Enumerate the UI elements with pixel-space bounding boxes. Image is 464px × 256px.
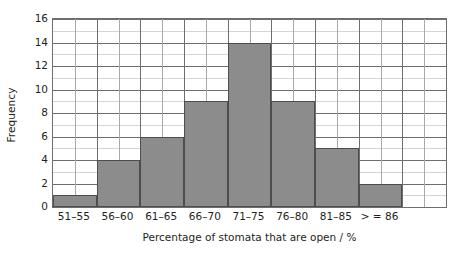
x-axis-tick-labels: 51–5556–6061–6566–7071–7576–8081–85> = 8… [52, 210, 447, 226]
y-axis-tick-label: 12 [35, 59, 48, 71]
bar-series [53, 19, 446, 207]
y-axis-tick-label: 16 [35, 12, 48, 24]
x-axis-tick-label: 76–80 [276, 210, 308, 222]
y-axis-tick-label: 2 [41, 177, 48, 189]
x-axis-tick-label: > = 86 [361, 210, 399, 222]
y-axis-tick-label: 10 [35, 83, 48, 95]
plot-area [52, 18, 447, 208]
y-axis-tick-labels: 0246810121416 [26, 18, 48, 208]
x-axis-tick-label: 81–85 [320, 210, 352, 222]
histogram-bar [53, 195, 97, 207]
x-axis-tick-label: 66–70 [189, 210, 221, 222]
histogram-bar [184, 101, 228, 207]
histogram-bar [97, 160, 141, 207]
x-axis-tick-label: 56–60 [102, 210, 134, 222]
y-axis-tick-label: 14 [35, 36, 48, 48]
histogram-bar [359, 184, 403, 208]
histogram-bar [271, 101, 315, 207]
histogram-bar [228, 43, 272, 208]
y-axis-title-text: Frequency [5, 87, 17, 142]
y-axis-tick-label: 8 [41, 106, 48, 118]
y-axis-tick-label: 6 [41, 130, 48, 142]
x-axis-tick-label: 61–65 [145, 210, 177, 222]
x-axis-tick-label: 51–55 [58, 210, 90, 222]
x-axis-tick-label: 71–75 [233, 210, 265, 222]
y-axis-title: Frequency [0, 0, 22, 230]
histogram-bar [140, 137, 184, 208]
y-axis-tick-label: 0 [41, 200, 48, 212]
y-axis-tick-label: 4 [41, 153, 48, 165]
histogram-bar [315, 148, 359, 207]
x-axis-title: Percentage of stomata that are open / % [52, 231, 447, 243]
histogram-figure: Frequency 0246810121416 51–5556–6061–656… [0, 0, 464, 256]
